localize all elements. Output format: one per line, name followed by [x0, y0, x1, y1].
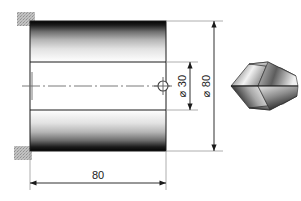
dimension-outer-diameter: ⌀ 80: [200, 21, 217, 151]
length-label: 80: [92, 169, 104, 181]
dimension-length: 80: [30, 169, 166, 186]
outer-diameter-label: ⌀ 80: [200, 75, 212, 98]
technical-drawing-canvas: ⌀ 30 ⌀ 80 80: [0, 0, 301, 201]
inner-diameter-label: ⌀ 30: [176, 75, 188, 98]
drill-bit-tip: [231, 62, 298, 110]
dimension-inner-diameter: ⌀ 30: [176, 62, 193, 110]
drawing-svg: ⌀ 30 ⌀ 80 80: [0, 0, 301, 201]
corner-mark-bottom-left: [14, 146, 32, 160]
